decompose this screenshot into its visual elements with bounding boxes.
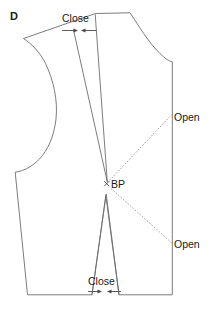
open-lower-label: Open [174, 238, 200, 250]
bust-point-label: BP [111, 178, 125, 190]
bodice-outline [15, 13, 172, 295]
pattern-diagram: BP D Close Open Open Close [0, 0, 213, 312]
pivot-line-lower [111, 189, 172, 244]
arrow-right-icon [62, 29, 78, 33]
pivot-line-upper [110, 115, 172, 181]
cross-marker-icon [104, 181, 109, 186]
arrow-left-icon [81, 29, 97, 33]
pattern-canvas: BP D Close Open Open Close [0, 0, 213, 312]
arrow-right-icon [88, 290, 102, 294]
close-waist-label: Close [88, 275, 115, 287]
open-upper-label: Open [174, 111, 200, 123]
page-title: D [10, 10, 18, 22]
close-shoulder-label: Close [62, 12, 89, 24]
